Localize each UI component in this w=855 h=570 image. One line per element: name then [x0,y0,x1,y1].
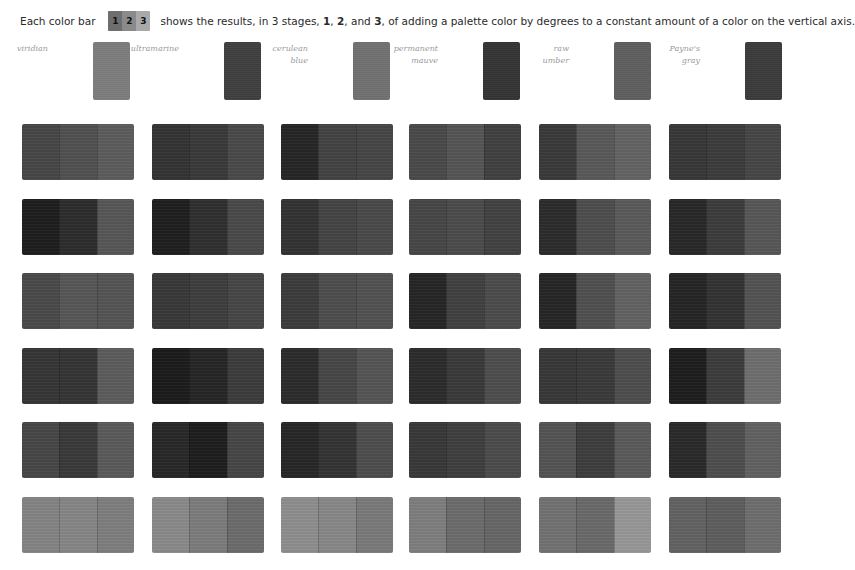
stage-2-swatch [318,497,355,553]
color-bar-r6-cerulean-blue [281,497,393,553]
stage-3-swatch [484,124,521,180]
stage-2-swatch [318,273,355,329]
stage-3-swatch [97,422,134,478]
stage-3-swatch [227,199,264,255]
stage-3-swatch [227,497,264,553]
stage-2-swatch [59,497,96,553]
stage-2-swatch [189,497,226,553]
stage-1-swatch [152,273,189,329]
stage-2-swatch [576,124,613,180]
stage-3-swatch [614,273,651,329]
stage-3-swatch [227,124,264,180]
stage-1-swatch [152,422,189,478]
stage-1-swatch [22,273,59,329]
palette-swatch [745,42,782,100]
stage-3-swatch [227,273,264,329]
stage-3-swatch [356,348,393,404]
color-bar-r4-permanent-mauve [409,348,521,404]
caption-stage-3: 3 [374,12,381,30]
stage-1-swatch [152,348,189,404]
caption-prefix: Each color bar [20,12,95,30]
stage-3-swatch [97,497,134,553]
stage-2-swatch [59,273,96,329]
stage-3-swatch [356,199,393,255]
stage-1-swatch [539,273,576,329]
caption-stage-2: 2 [337,12,344,30]
caption-text-d: , of adding a palette color by degrees t… [381,12,855,30]
stage-1-swatch [669,124,706,180]
stage-3-swatch [484,422,521,478]
stage-2-swatch [189,273,226,329]
stage-2-swatch [446,422,483,478]
stage-3-swatch [97,199,134,255]
color-bar-r4-raw-umber [539,348,651,404]
legend-stage-1: 1 [108,11,122,31]
stage-1-swatch [22,422,59,478]
color-bar-r6-paynes-gray [669,497,781,553]
stage-1-swatch [22,348,59,404]
stage-2-swatch [318,124,355,180]
stage-1-swatch [409,422,446,478]
stage-3-swatch [356,497,393,553]
color-bar-r3-ultramarine [152,273,264,329]
color-bar-r5-cerulean-blue [281,422,393,478]
palette-label: cerulean blue [198,43,308,67]
stage-1-swatch [281,497,318,553]
color-bar-r6-viridian [22,497,134,553]
stage-2-swatch [706,422,743,478]
stage-3-swatch [614,124,651,180]
stage-1-swatch [22,124,59,180]
caption-text-a: shows the results, in 3 stages, [160,12,319,30]
legend-stage-2: 2 [122,11,136,31]
color-bar-r4-ultramarine [152,348,264,404]
stage-3-swatch [614,422,651,478]
color-bar-r2-paynes-gray [669,199,781,255]
caption-text-b: , [330,12,333,30]
color-bar-r2-viridian [22,199,134,255]
stage-1-swatch [22,199,59,255]
stage-1-swatch [409,497,446,553]
stage-1-swatch [152,497,189,553]
caption-stage-1: 1 [323,12,330,30]
stage-3-swatch [744,273,781,329]
color-bar-r6-raw-umber [539,497,651,553]
stage-1-swatch [409,124,446,180]
stage-1-swatch [539,497,576,553]
stage-2-swatch [318,199,355,255]
stage-2-swatch [446,124,483,180]
stage-2-swatch [706,348,743,404]
stage-3-swatch [356,273,393,329]
stage-2-swatch [576,348,613,404]
caption: Each color bar 1 2 3 shows the results, … [20,12,855,30]
palette-label: viridian [0,43,48,55]
stage-2-swatch [189,199,226,255]
color-bar-r3-cerulean-blue [281,273,393,329]
color-bar-r5-ultramarine [152,422,264,478]
stage-3-swatch [227,422,264,478]
color-bar-r3-permanent-mauve [409,273,521,329]
stage-2-swatch [706,497,743,553]
stage-3-swatch [356,124,393,180]
palette-label: Payne's gray [590,43,700,67]
stage-3-swatch [356,422,393,478]
stage-3-swatch [484,273,521,329]
palette-label: permanent mauve [328,43,438,67]
stage-2-swatch [576,422,613,478]
stage-3-swatch [97,124,134,180]
color-bar-r1-paynes-gray [669,124,781,180]
stage-1-swatch [539,422,576,478]
stage-2-swatch [446,497,483,553]
color-bar-r6-ultramarine [152,497,264,553]
color-bar-r2-cerulean-blue [281,199,393,255]
caption-text-c: , and [344,12,370,30]
stage-1-swatch [539,348,576,404]
color-bar-r1-permanent-mauve [409,124,521,180]
color-bar-r2-permanent-mauve [409,199,521,255]
stage-1-swatch [669,348,706,404]
stage-2-swatch [59,199,96,255]
stage-2-swatch [318,348,355,404]
stage-3-swatch [614,348,651,404]
stage-1-swatch [152,124,189,180]
stage-1-swatch [409,273,446,329]
stage-1-swatch [669,199,706,255]
